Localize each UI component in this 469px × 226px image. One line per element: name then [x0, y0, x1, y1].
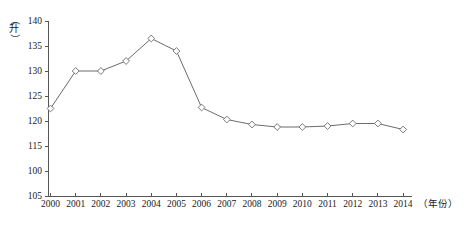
data-point-marker — [400, 126, 407, 133]
plot-area — [0, 0, 469, 226]
data-point-marker — [249, 121, 256, 128]
x-axis-unit-label: （年份） — [418, 198, 458, 210]
data-point-marker — [324, 123, 331, 130]
data-point-marker — [223, 116, 230, 123]
data-point-marker — [299, 124, 306, 131]
data-point-marker — [375, 120, 382, 127]
x-axis-tick-labels: 2000200120022003200420052006200720082009… — [0, 198, 469, 214]
x-axis-tick-label: 2014 — [386, 198, 420, 210]
data-point-marker — [274, 124, 281, 131]
data-point-marker — [198, 104, 205, 111]
data-point-marker — [97, 68, 104, 75]
x-axis-ticks — [51, 193, 404, 197]
series-markers — [47, 35, 406, 133]
data-point-marker — [72, 68, 79, 75]
data-point-marker — [349, 120, 356, 127]
data-point-marker — [173, 48, 180, 55]
line-chart: （ 升 ） 140135130125120115100105 200020012… — [0, 0, 469, 226]
